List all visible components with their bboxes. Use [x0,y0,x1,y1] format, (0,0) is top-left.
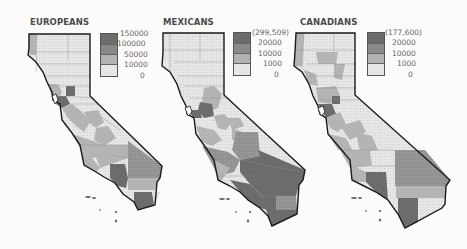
legend-canadians [367,32,385,76]
legend-label: 1000 [397,59,416,68]
legend-label: (177,600) [385,28,422,37]
legend-label: 20000 [392,38,416,47]
legend-label: 0 [408,70,413,79]
legend-label: 10000 [392,49,416,58]
